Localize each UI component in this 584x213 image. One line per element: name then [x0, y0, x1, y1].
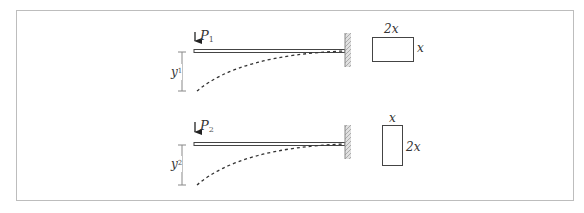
wall-support: [345, 125, 351, 159]
cross-section-portrait: [383, 126, 403, 166]
deflection-curve: [197, 51, 344, 91]
case-2: P2 y2 x 2x: [170, 111, 421, 185]
figure-border: [17, 11, 574, 201]
force-label-p1: P1: [199, 28, 214, 44]
cantilever-beam-diagram: P1 y1 2x x P2 y2: [0, 0, 584, 213]
cross-section-width-label: x: [389, 111, 396, 125]
force-label-p2: P2: [199, 118, 214, 134]
cross-section-landscape: [373, 38, 414, 62]
cross-section-width-label: 2x: [383, 22, 399, 36]
cross-section-height-label: 2x: [405, 140, 421, 154]
wall-support: [345, 33, 351, 67]
deflection-curve: [197, 144, 344, 185]
case-1: P1 y1 2x x: [170, 22, 424, 91]
cross-section-height-label: x: [417, 41, 424, 55]
